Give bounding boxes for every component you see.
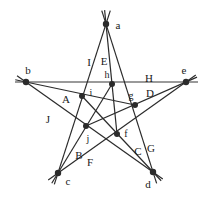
line-b-d: [17, 76, 163, 179]
vertex-node-h: [109, 81, 115, 87]
vertex-node-f: [114, 131, 120, 137]
vertex-node-d: [150, 169, 156, 175]
star-diagram-canvas: [0, 0, 211, 198]
line-a-d: [102, 11, 157, 184]
vertex-node-i: [79, 93, 85, 99]
vertex-node-g: [132, 102, 138, 108]
vertex-node-e: [183, 79, 189, 85]
lines-layer: [15, 10, 198, 184]
vertex-node-b: [23, 79, 29, 85]
vertex-node-c: [55, 170, 61, 176]
star-diagram-figure: abecdhigfjABCDEFGHIJ: [0, 0, 211, 198]
line-e-j: [86, 77, 197, 126]
vertex-node-j: [83, 123, 89, 129]
line-b-g: [15, 80, 135, 105]
vertex-node-a: [103, 21, 109, 27]
